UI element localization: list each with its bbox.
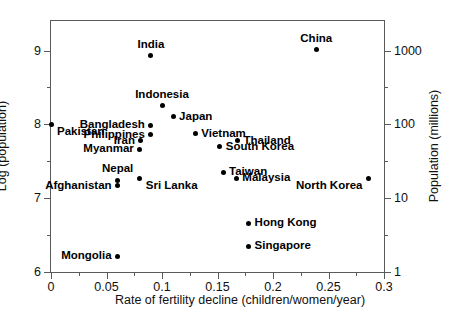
y-axis-tick-left <box>44 198 51 199</box>
x-axis-title: Rate of fertility decline (children/wome… <box>115 293 365 307</box>
data-point-label: Hong Kong <box>255 218 317 230</box>
y-axis-tick-label-right: 1 <box>394 265 401 279</box>
data-point-label: Myanmar <box>83 144 134 156</box>
y-axis-tick-right <box>384 272 391 273</box>
data-point-label: Mongolia <box>61 251 111 263</box>
y-axis-tick-label-left: 6 <box>34 265 41 279</box>
y-axis-tick-label-right: 1000 <box>394 44 422 58</box>
x-axis-tick <box>218 272 219 279</box>
y-axis-tick-label-right: 10 <box>394 191 408 205</box>
data-point-label: Sri Lanka <box>146 180 198 192</box>
x-axis-tick-label: 0.15 <box>205 280 229 294</box>
data-point <box>137 147 142 152</box>
x-axis-tick <box>162 272 163 279</box>
data-point-label: Afghanistan <box>45 180 111 192</box>
x-axis-tick <box>134 272 135 276</box>
data-point-label: Nepal <box>102 164 133 176</box>
y-axis-tick-left <box>44 51 51 52</box>
y-axis-tick-label-left: 9 <box>34 44 41 58</box>
y-axis-tick-label-left: 7 <box>34 191 41 205</box>
data-point-label: Singapore <box>255 240 311 252</box>
data-point <box>217 144 222 149</box>
x-axis-tick-label: 0.3 <box>375 280 392 294</box>
y-axis-tick-right <box>384 87 388 88</box>
x-axis-tick-label: 0.25 <box>316 280 340 294</box>
x-axis-tick <box>384 272 385 279</box>
data-point-label: India <box>137 39 164 51</box>
data-point <box>49 122 54 127</box>
data-point-label: South Korea <box>226 141 294 153</box>
data-point-label: Japan <box>179 111 212 123</box>
y-axis-tick-left <box>47 161 51 162</box>
x-axis-tick <box>107 272 108 279</box>
data-point <box>138 138 143 143</box>
x-axis-tick <box>273 272 274 279</box>
x-axis-tick <box>301 272 302 276</box>
x-axis-tick <box>245 272 246 276</box>
x-axis-tick-label: 0 <box>48 280 55 294</box>
data-point <box>314 47 319 52</box>
y-axis-tick-label-left: 8 <box>34 117 41 131</box>
x-axis-tick-label: 0.1 <box>153 280 170 294</box>
y-axis-tick-left <box>47 87 51 88</box>
fertility-population-scatter-figure: 00.050.10.150.20.250.398761000100101Chin… <box>0 0 454 326</box>
x-axis-tick <box>190 272 191 276</box>
plot-area: 00.050.10.150.20.250.398761000100101Chin… <box>50 20 385 273</box>
y-axis-tick-left <box>47 235 51 236</box>
x-axis-tick <box>51 272 52 279</box>
y-axis-tick-right <box>384 235 388 236</box>
y-axis-tick-right <box>384 198 391 199</box>
data-point <box>148 123 153 128</box>
data-point <box>171 114 176 119</box>
y-axis-tick-right <box>384 51 391 52</box>
data-point <box>137 176 142 181</box>
data-point <box>193 131 198 136</box>
x-axis-tick-label: 0.2 <box>264 280 281 294</box>
data-point <box>115 254 120 259</box>
data-point <box>221 170 226 175</box>
x-axis-tick-label: 0.05 <box>94 280 118 294</box>
data-point <box>246 221 251 226</box>
data-point <box>115 183 120 188</box>
y-axis-tick-right <box>384 161 388 162</box>
y-axis-title-left: Log (population) <box>0 101 9 191</box>
y-axis-tick-right <box>384 124 391 125</box>
y-axis-tick-label-right: 100 <box>394 117 415 131</box>
data-point-label: China <box>300 33 332 45</box>
data-point <box>246 244 251 249</box>
data-point-label: Indonesia <box>135 89 189 101</box>
x-axis-tick <box>329 272 330 279</box>
y-axis-title-right: Population (millions) <box>427 90 441 203</box>
data-point-label: Malaysia <box>242 172 290 184</box>
x-axis-tick <box>79 272 80 276</box>
y-axis-tick-left <box>44 272 51 273</box>
data-point <box>148 132 153 137</box>
data-point <box>234 176 239 181</box>
data-point <box>148 53 153 58</box>
data-point <box>160 103 165 108</box>
data-point-label: North Korea <box>296 180 362 192</box>
x-axis-tick <box>356 272 357 276</box>
data-point <box>366 176 371 181</box>
